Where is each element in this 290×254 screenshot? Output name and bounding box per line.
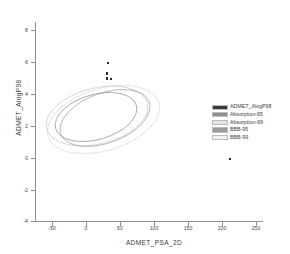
legend-label: ADMET_AlogP98 [230, 104, 272, 109]
legend-swatch [212, 112, 228, 117]
x-tick-label-250: 250 [244, 226, 268, 231]
legend-label: Absorption-99 [230, 120, 263, 125]
y-tick-8 [31, 30, 36, 31]
legend-label: Absorption-95 [230, 112, 263, 117]
y-tick-label-neg2: -2 [8, 188, 28, 193]
legend-label: BBB-99 [230, 135, 248, 140]
legend-label: BBB-95 [230, 127, 248, 132]
y-tick-label-neg4: -4 [8, 219, 28, 224]
ellipse-bbb-99 [39, 73, 168, 166]
x-tick-label-50: 50 [108, 226, 132, 231]
scatter-plot: 8 6 4 2 0 -2 -4 -50 0 50 100 150 200 250… [0, 0, 290, 254]
data-point [106, 77, 109, 80]
y-tick-4 [31, 94, 36, 95]
legend-item-absorption-99[interactable]: Absorption-99 [212, 119, 272, 125]
y-tick-0 [31, 158, 36, 159]
ellipse-absorption-95 [49, 84, 142, 150]
legend-item-absorption-95[interactable]: Absorption-95 [212, 112, 272, 118]
x-tick-label-0: 0 [74, 226, 98, 231]
x-axis-line [35, 221, 263, 222]
legend-item-admet-alogp98[interactable]: ADMET_AlogP98 [212, 104, 272, 110]
x-tick-label-100: 100 [142, 226, 166, 231]
legend-swatch [212, 135, 228, 140]
legend: ADMET_AlogP98 Absorption-95 Absorption-9… [212, 104, 272, 141]
legend-swatch [212, 105, 228, 110]
y-tick-6 [31, 62, 36, 63]
y-tick-2 [31, 126, 36, 127]
x-tick-label-200: 200 [210, 226, 234, 231]
data-point [106, 72, 109, 75]
x-axis-title: ADMET_PSA_2D [0, 239, 290, 246]
legend-swatch [212, 120, 228, 125]
y-tick-neg4 [31, 221, 36, 222]
data-point-outlier [229, 158, 232, 161]
x-tick-label-neg50: -50 [40, 226, 64, 231]
legend-swatch [212, 127, 228, 132]
y-tick-label-8: 8 [8, 28, 28, 33]
data-point [110, 78, 113, 81]
y-axis-line [35, 22, 36, 222]
ellipse-bbb-95 [52, 78, 157, 157]
data-point [107, 62, 110, 65]
ellipse-absorption-99 [40, 76, 154, 155]
x-axis-title-text: ADMET_PSA_2D [108, 239, 182, 246]
x-tick-label-150: 150 [176, 226, 200, 231]
legend-item-bbb-95[interactable]: BBB-95 [212, 127, 272, 133]
y-axis-title: ADMET_AlogP98 [15, 48, 22, 168]
legend-item-bbb-99[interactable]: BBB-99 [212, 134, 272, 140]
y-tick-neg2 [31, 190, 36, 191]
